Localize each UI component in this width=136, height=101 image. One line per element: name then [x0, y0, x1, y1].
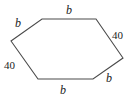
side-label-right: 40	[112, 30, 123, 41]
side-label-left: 40	[4, 60, 15, 71]
side-label-top-left: b	[15, 17, 21, 29]
side-label-bottom-right: b	[106, 72, 112, 84]
hexagon-figure: b b 40 b b 40	[0, 0, 136, 101]
side-label-top: b	[66, 4, 72, 16]
side-label-bottom: b	[60, 84, 66, 96]
hexagon-outline	[11, 19, 123, 79]
